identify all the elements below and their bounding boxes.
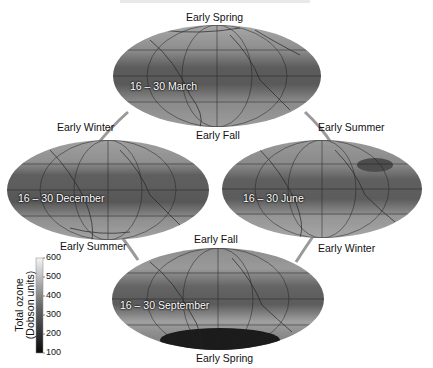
colorbar-tick-400: 400 [46, 290, 61, 300]
map-march [113, 25, 321, 127]
colorbar-label-line2: (Dobson units) [25, 260, 36, 350]
map-june [222, 140, 422, 238]
season-label-right-below: Early Winter [318, 242, 375, 254]
colorbar-tick-300: 300 [46, 309, 61, 319]
season-label-bottom-below: Early Spring [196, 352, 253, 364]
ozone-hole [160, 328, 280, 352]
colorbar-tick-600: 600 [46, 252, 61, 262]
season-label-left-below: Early Summer [60, 240, 127, 252]
colorbar-tick-500: 500 [46, 271, 61, 281]
map-date-label-december: 16 – 30 December [18, 192, 104, 204]
season-label-right-above: Early Summer [318, 121, 385, 133]
ozone-seasonal-figure [0, 0, 433, 368]
map-date-label-june: 16 – 30 June [243, 192, 304, 204]
colorbar-tick-200: 200 [46, 328, 61, 338]
season-label-top-below: Early Fall [196, 129, 240, 141]
colorbar-tick-100: 100 [46, 347, 61, 357]
season-label-left-above: Early Winter [57, 121, 114, 133]
colorbar [36, 258, 45, 353]
map-date-label-september: 16 – 30 September [120, 299, 209, 311]
colorbar-axis-label: Total ozone (Dobson units) [14, 260, 36, 350]
season-label-top-above: Early Spring [186, 11, 243, 23]
map-date-label-march: 16 – 30 March [130, 80, 197, 92]
season-label-bottom-above: Early Fall [194, 233, 238, 245]
map-december [7, 140, 209, 240]
